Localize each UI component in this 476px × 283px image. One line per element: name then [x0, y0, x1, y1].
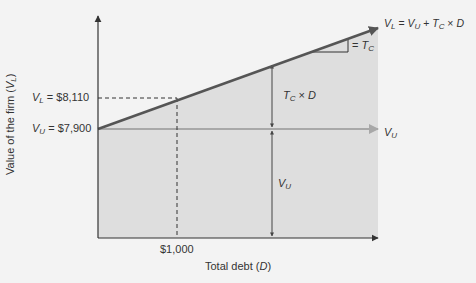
- vl-line-label: VL = VU + TC × D: [384, 18, 464, 31]
- tax-shield-label: TC × D: [283, 90, 316, 103]
- y-axis-title: Value of the firm (VL): [4, 74, 18, 175]
- vu-inner-label: VU: [278, 178, 291, 191]
- vl-tick-label: VL = $8,110: [32, 92, 89, 105]
- shaded-region: [98, 28, 378, 238]
- vu-line-label: VU: [384, 127, 397, 140]
- x-tick-label: $1,000: [160, 244, 194, 255]
- capital-structure-diagram: [0, 0, 476, 283]
- vu-tick-label: VU = $7,900: [32, 123, 91, 136]
- slope-label: = TC: [352, 40, 374, 53]
- x-axis-title: Total debt (D): [205, 261, 271, 272]
